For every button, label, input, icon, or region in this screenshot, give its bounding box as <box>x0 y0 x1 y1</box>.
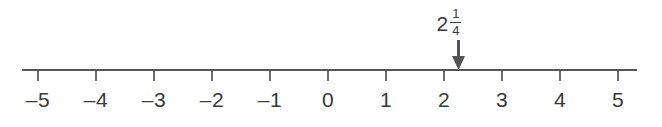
tick-label: 2 <box>418 88 470 112</box>
number-line-figure: –5–4–3–2–1012345 2 1 4 <box>0 0 662 127</box>
tick-label: 0 <box>302 88 354 112</box>
point-label-fraction: 1 4 <box>450 7 461 37</box>
tick-label: –1 <box>244 88 296 112</box>
point-label-whole: 2 <box>437 13 449 34</box>
point-arrow-marker <box>452 40 465 70</box>
arrow-head <box>452 56 465 70</box>
tick-label: 5 <box>592 88 644 112</box>
tick-label: –2 <box>186 88 238 112</box>
fraction-numerator: 1 <box>450 7 461 21</box>
tick-label: –3 <box>128 88 180 112</box>
tick-label: 1 <box>360 88 412 112</box>
tick-label: 3 <box>476 88 528 112</box>
point-value-label: 2 1 4 <box>437 8 462 38</box>
tick-label: –4 <box>70 88 122 112</box>
tick-label: 4 <box>534 88 586 112</box>
fraction-denominator: 4 <box>450 24 461 38</box>
tick-label: –5 <box>12 88 64 112</box>
